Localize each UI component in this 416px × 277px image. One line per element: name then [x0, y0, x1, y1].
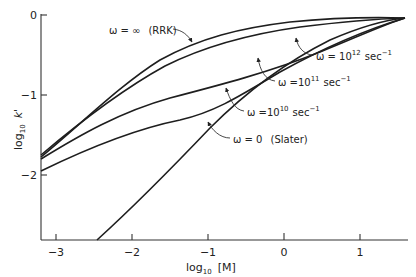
- y-label-rest: k': [12, 109, 25, 118]
- x-tick-labels: −3 −2 −1 0 1: [48, 246, 364, 259]
- y-tick-label: −1: [21, 89, 37, 102]
- y-axis-label: log10k': [12, 109, 27, 150]
- y-label-log: log: [12, 133, 25, 150]
- x-tick-label: 1: [357, 246, 364, 259]
- curve-w1e11: [41, 18, 405, 159]
- x-tick-label: −3: [48, 246, 64, 259]
- label-w11: ω =1011sec−1: [278, 75, 351, 88]
- x-tick-label: −1: [200, 246, 216, 259]
- svg-text:log10k': log10k': [12, 109, 27, 150]
- label-rrk: ω = ∞(RRK): [109, 25, 177, 36]
- slater-arrow-icon: [208, 122, 230, 138]
- label-slater: ω = 0(Slater): [233, 134, 308, 145]
- y-label-sub: 10: [19, 124, 27, 133]
- x-axis-label: log10[M]: [186, 261, 236, 276]
- chart-figure: 0 −1 −2 −3 −2 −1 0 1 log10[M] log10k': [0, 0, 416, 277]
- y-tick-label: −2: [21, 169, 37, 182]
- y-tick-label: 0: [30, 9, 37, 22]
- x-tick-label: 0: [281, 246, 288, 259]
- y-tick-labels: 0 −1 −2: [21, 9, 37, 182]
- w12-arrow-icon: [296, 38, 312, 55]
- curve-w1e10: [41, 18, 405, 171]
- svg-text:log10[M]: log10[M]: [186, 261, 236, 276]
- label-w12: ω = 1012sec−1: [316, 49, 392, 62]
- x-label-rest: [M]: [218, 261, 236, 274]
- label-w10: ω =1010sec−1: [247, 105, 320, 118]
- x-label-log: log: [186, 261, 203, 274]
- x-tick-label: −2: [124, 246, 140, 259]
- x-label-sub: 10: [203, 268, 212, 276]
